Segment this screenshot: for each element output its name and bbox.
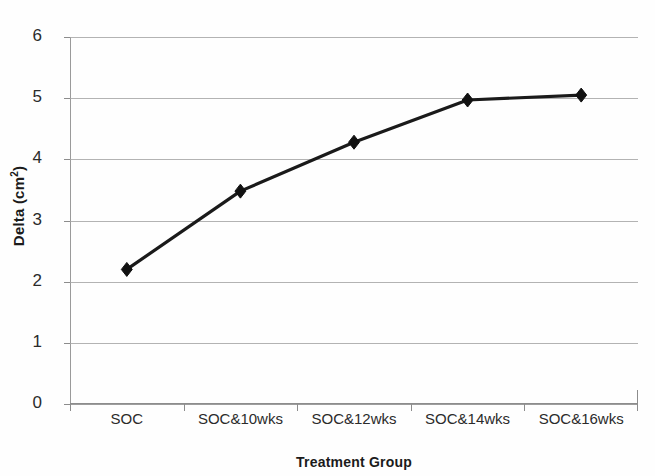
line-chart: Delta (cm2) 0123456 SOCSOC&10wksSOC&12wk…	[0, 0, 655, 476]
data-point-marker	[576, 88, 587, 102]
x-axis-category-labels: SOCSOC&10wksSOC&12wksSOC&14wksSOC&16wks	[70, 410, 638, 436]
y-tick-label: 6	[0, 26, 42, 46]
y-tick-label: 5	[0, 87, 42, 107]
y-tick-label: 1	[0, 332, 42, 352]
x-category-label: SOC	[111, 410, 144, 427]
data-point-marker	[349, 135, 360, 149]
series-delta	[70, 37, 638, 404]
x-category-label: SOC&16wks	[539, 410, 624, 427]
y-tick-label: 2	[0, 271, 42, 291]
x-category-label: SOC&10wks	[198, 410, 283, 427]
plot-area: 0123456	[70, 37, 638, 404]
y-tick-label: 3	[0, 210, 42, 230]
y-axis-title-superscript: 2	[9, 171, 20, 177]
data-point-marker	[121, 262, 132, 276]
x-category-label: SOC&12wks	[311, 410, 396, 427]
x-axis-title: Treatment Group	[70, 454, 638, 470]
data-point-marker	[462, 93, 473, 107]
x-category-label: SOC&14wks	[425, 410, 510, 427]
series-markers	[121, 88, 586, 276]
series-line	[127, 95, 581, 269]
y-tick-label: 0	[0, 393, 42, 413]
gridline	[70, 404, 638, 405]
data-point-marker	[235, 184, 246, 198]
y-tick-label: 4	[0, 148, 42, 168]
